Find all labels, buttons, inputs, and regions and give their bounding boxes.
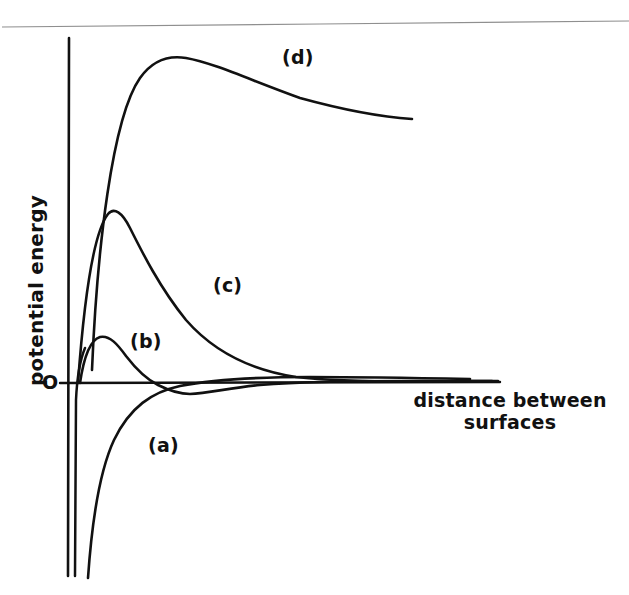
x-axis-label-line1: distance between bbox=[413, 389, 606, 411]
x-axis-label-line2: surfaces bbox=[464, 411, 556, 433]
y-axis-label: potential energy bbox=[24, 195, 48, 386]
y-axis bbox=[68, 38, 69, 576]
curve-label-c: (c) bbox=[213, 274, 242, 296]
curve-label-d: (d) bbox=[282, 46, 314, 68]
plot-canvas bbox=[0, 0, 629, 595]
curve-c bbox=[78, 211, 498, 383]
curve-d bbox=[92, 57, 412, 370]
scan-artifact-line bbox=[2, 21, 629, 27]
curve-label-a: (a) bbox=[148, 434, 179, 456]
curve-label-b: (b) bbox=[130, 330, 162, 352]
x-axis-label: distance betweensurfaces bbox=[404, 389, 616, 434]
figure-container: O potential energy distance betweensurfa… bbox=[0, 0, 629, 595]
